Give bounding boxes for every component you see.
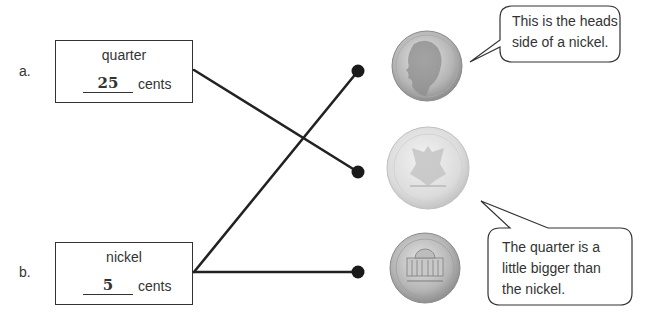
callout-bottom-line-3: the nickel. xyxy=(502,279,601,300)
match-dot-2[interactable] xyxy=(352,166,365,179)
callout-bottom-line-1: The quarter is a xyxy=(502,237,601,258)
match-dot-3[interactable] xyxy=(352,266,365,279)
match-line-nickel-heads[interactable] xyxy=(194,71,358,272)
nickel-heads-icon xyxy=(392,31,462,101)
callout-top-line-2: side of a nickel. xyxy=(512,32,618,53)
nickel-tails-icon xyxy=(390,233,460,303)
callout-top-text: This is the heads side of a nickel. xyxy=(512,11,618,53)
callout-top-line-1: This is the heads xyxy=(512,11,618,32)
callout-bottom-line-2: little bigger than xyxy=(502,258,601,279)
quarter-tails-icon xyxy=(387,127,469,209)
match-line-quarter[interactable] xyxy=(194,70,358,172)
match-dot-1[interactable] xyxy=(352,65,365,78)
callout-bottom-text: The quarter is a little bigger than the … xyxy=(502,237,601,300)
match-lines xyxy=(194,70,358,272)
